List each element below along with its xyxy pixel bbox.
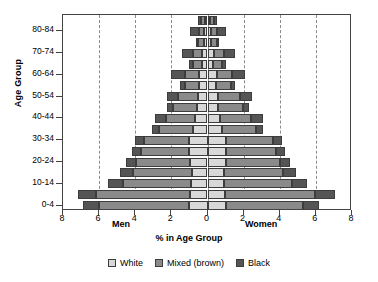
pyramid-row bbox=[63, 114, 350, 123]
bar-segment-right-mixed bbox=[218, 92, 240, 101]
pyramid-row bbox=[63, 125, 350, 134]
bar-segment-right-white bbox=[208, 103, 219, 112]
bar-segment-left-mixed bbox=[96, 190, 190, 199]
pyramid-row bbox=[63, 60, 350, 69]
pyramid-row bbox=[63, 201, 350, 210]
bar-segment-left-mixed bbox=[193, 49, 202, 58]
bar-segment-right-mixed bbox=[226, 136, 273, 145]
legend-item: Mixed (brown) bbox=[155, 258, 224, 268]
bar-segment-right-white bbox=[208, 201, 226, 210]
bar-segment-right-black bbox=[251, 114, 263, 123]
y-axis-tick bbox=[56, 52, 62, 53]
bar-segment-left-mixed bbox=[173, 103, 196, 112]
bar-segment-left-black bbox=[171, 70, 185, 79]
bar-segment-right-mixed bbox=[220, 114, 251, 123]
bar-segment-right-black bbox=[256, 125, 263, 134]
bar-segment-right-black bbox=[217, 27, 226, 36]
pyramid-row bbox=[63, 16, 350, 25]
bar-segment-left-mixed bbox=[166, 114, 195, 123]
bar-segment-right-black bbox=[243, 103, 249, 112]
pyramid-row bbox=[63, 147, 350, 156]
bar-segment-left-mixed bbox=[123, 179, 192, 188]
bar-segment-left-mixed bbox=[159, 125, 193, 134]
bar-segment-left-black bbox=[83, 201, 99, 210]
y-axis-tick bbox=[56, 183, 62, 184]
legend: WhiteMixed (brown)Black bbox=[0, 258, 378, 268]
x-axis-tick-label: 8 bbox=[341, 213, 361, 223]
bar-segment-right-white bbox=[208, 158, 226, 167]
bar-segment-right-mixed bbox=[226, 158, 280, 167]
bar-segment-right-white bbox=[208, 114, 221, 123]
y-axis-tick-label: 60-64 bbox=[6, 68, 54, 78]
bar-segment-left-black bbox=[190, 27, 199, 36]
bar-segment-left-black bbox=[180, 81, 185, 90]
y-axis-tick bbox=[56, 30, 62, 31]
bar-segment-right-black bbox=[217, 38, 220, 47]
plot-area bbox=[62, 14, 351, 210]
bar-segment-left-white bbox=[190, 190, 207, 199]
x-axis-tick-label: 8 bbox=[52, 213, 72, 223]
bar-segment-left-black bbox=[78, 190, 96, 199]
pyramid-row bbox=[63, 103, 350, 112]
bar-segment-right-white bbox=[208, 190, 225, 199]
bar-segment-left-black bbox=[198, 16, 202, 25]
y-axis-tick-label: 0-4 bbox=[6, 199, 54, 209]
pyramid-row bbox=[63, 179, 350, 188]
bar-segment-right-white bbox=[208, 136, 226, 145]
y-axis-tick bbox=[56, 117, 62, 118]
bar-segment-right-mixed bbox=[226, 147, 277, 156]
legend-item: White bbox=[108, 258, 143, 268]
bar-segment-left-black bbox=[167, 92, 178, 101]
bar-segment-right-black bbox=[231, 81, 236, 90]
bar-segment-left-black bbox=[167, 103, 173, 112]
bar-segment-right-black bbox=[276, 147, 285, 156]
bar-segment-left-black bbox=[120, 168, 133, 177]
y-axis-tick bbox=[56, 139, 62, 140]
bar-segment-left-mixed bbox=[144, 136, 189, 145]
pyramid-row bbox=[63, 81, 350, 90]
bar-segment-left-mixed bbox=[141, 147, 190, 156]
x-axis-tick-label: 2 bbox=[160, 213, 180, 223]
pyramid-row bbox=[63, 49, 350, 58]
bar-segment-right-white bbox=[208, 92, 219, 101]
bar-segment-left-white bbox=[189, 136, 207, 145]
y-axis-tick bbox=[56, 74, 62, 75]
bar-segment-left-white bbox=[192, 168, 207, 177]
y-axis-tick-label: 40-44 bbox=[6, 111, 54, 121]
bar-segment-left-black bbox=[132, 147, 141, 156]
bar-segment-right-white bbox=[208, 168, 224, 177]
x-axis-tick-label: 6 bbox=[88, 213, 108, 223]
y-axis-tick-label: 20-24 bbox=[6, 155, 54, 165]
bar-segment-left-mixed bbox=[201, 16, 205, 25]
x-axis-tick-label: 6 bbox=[305, 213, 325, 223]
x-axis-tick-label: 0 bbox=[197, 213, 217, 223]
bar-segment-right-black bbox=[315, 190, 335, 199]
bar-segment-left-mixed bbox=[185, 70, 199, 79]
legend-swatch-icon bbox=[236, 259, 244, 267]
x-axis-title: % in Age Group bbox=[0, 233, 378, 243]
women-side-label: Women bbox=[245, 219, 277, 229]
bar-segment-right-black bbox=[292, 179, 306, 188]
bar-segment-right-white bbox=[208, 179, 224, 188]
bar-segment-right-mixed bbox=[218, 103, 242, 112]
bar-segment-right-white bbox=[208, 81, 216, 90]
bar-segment-left-black bbox=[135, 136, 144, 145]
bar-segment-left-mixed bbox=[198, 38, 203, 47]
legend-swatch-icon bbox=[108, 259, 116, 267]
bar-segment-right-mixed bbox=[214, 49, 224, 58]
legend-swatch-icon bbox=[155, 259, 163, 267]
bar-segment-right-white bbox=[208, 147, 226, 156]
bar-segment-left-mixed bbox=[185, 81, 199, 90]
bar-segment-left-white bbox=[198, 92, 208, 101]
bar-segment-right-mixed bbox=[225, 190, 315, 199]
bar-segment-left-white bbox=[197, 103, 208, 112]
bar-segment-right-mixed bbox=[222, 125, 256, 134]
bar-segment-right-black bbox=[240, 92, 252, 101]
legend-item: Black bbox=[236, 258, 270, 268]
bar-segment-right-mixed bbox=[224, 179, 293, 188]
population-pyramid-figure: Age Group 0-410-1420-2430-3440-4450-5460… bbox=[0, 0, 378, 282]
bar-segment-right-white bbox=[208, 125, 222, 134]
bar-segment-right-black bbox=[232, 70, 246, 79]
bar-segment-left-white bbox=[199, 70, 207, 79]
bar-segment-left-mixed bbox=[99, 201, 189, 210]
